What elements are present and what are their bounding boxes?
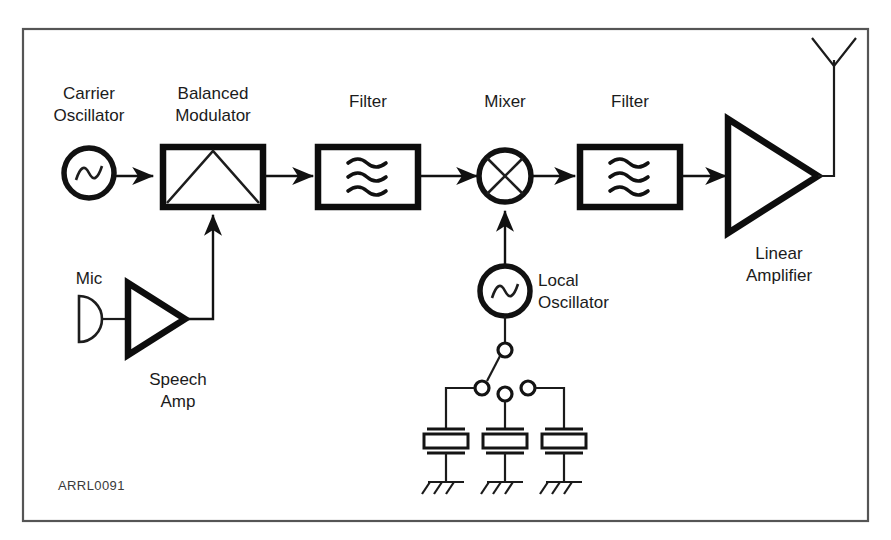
local-oscillator-label-line1: Local <box>538 271 579 290</box>
balanced-modulator-label-line1: Balanced <box>178 84 249 103</box>
filter-2-label: Filter <box>611 92 649 111</box>
switch-contact-3[interactable] <box>521 381 535 395</box>
local-oscillator[interactable] <box>480 266 530 316</box>
mixer-label: Mixer <box>484 92 526 111</box>
block-diagram: Carrier Oscillator Balanced Modulator Fi… <box>0 0 891 540</box>
balanced-modulator[interactable] <box>163 147 263 207</box>
switch-pivot[interactable] <box>498 343 512 357</box>
balanced-modulator-label-line2: Modulator <box>175 106 251 125</box>
crystal-1-body <box>424 434 468 448</box>
mixer[interactable] <box>479 150 531 202</box>
figure-canvas: Carrier Oscillator Balanced Modulator Fi… <box>0 0 891 540</box>
speech-amp-label-line1: Speech <box>149 370 207 389</box>
filter-1-label: Filter <box>349 92 387 111</box>
crystal-2-body <box>483 434 527 448</box>
local-oscillator-label-line2: Oscillator <box>538 293 609 312</box>
carrier-oscillator[interactable] <box>64 148 114 198</box>
speech-amp-label-line2: Amp <box>161 392 196 411</box>
figure-caption-id: ARRL0091 <box>58 478 125 493</box>
balanced-modulator-box <box>163 147 263 207</box>
mic-label: Mic <box>76 269 103 288</box>
linear-amplifier-label-line2: Amplifier <box>746 266 812 285</box>
switch-contact-2[interactable] <box>498 387 512 401</box>
carrier-oscillator-label-line2: Oscillator <box>54 106 125 125</box>
filter-2[interactable] <box>580 147 680 207</box>
crystal-3-body <box>542 434 586 448</box>
carrier-oscillator-label-line1: Carrier <box>63 84 115 103</box>
filter-1[interactable] <box>318 147 418 207</box>
switch-contact-1[interactable] <box>475 381 489 395</box>
linear-amplifier-label-line1: Linear <box>755 244 803 263</box>
